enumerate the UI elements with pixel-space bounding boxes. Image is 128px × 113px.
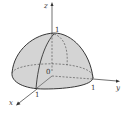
z-axis-arrowhead	[51, 2, 54, 6]
y-axis	[93, 79, 117, 81]
x-axis-label: x	[9, 100, 13, 107]
dome-surface	[12, 33, 93, 89]
origin-label: 0	[46, 69, 50, 76]
z-tick-label: 1	[55, 27, 59, 34]
z-axis-label: z	[44, 3, 48, 10]
y-axis-arrowhead	[116, 80, 120, 83]
y-tick-label: 1	[91, 85, 95, 92]
x-tick-label: 1	[35, 92, 39, 99]
y-axis-label: y	[116, 85, 120, 92]
paraboloid-diagram	[0, 0, 128, 113]
